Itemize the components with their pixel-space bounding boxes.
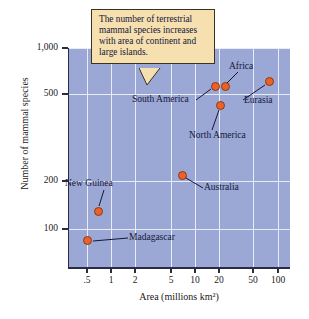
xtick-mark-50 [252,268,254,273]
xtick-mark-0.5 [86,268,88,273]
point-label-north-america: North America [189,131,246,141]
xtick-mark-1 [110,268,112,273]
plot-area [68,48,290,267]
point-label-new-guinea: New Guinea [65,179,113,189]
point-label-south-america: South America [132,95,189,105]
callout-annotation: The number of terrestrial mammal species… [91,9,215,64]
xtick-mark-5 [170,268,172,273]
gridline-vertical [219,48,220,267]
data-point-australia[interactable] [178,171,187,180]
point-label-madagascar: Madagascar [129,233,175,243]
xtick-mark-10 [194,268,196,273]
gridline-vertical [195,48,196,267]
ytick-label-1000: 1,000 [18,43,58,53]
point-label-australia: Australia [204,183,239,193]
data-point-africa[interactable] [221,82,230,91]
xtick-label-20: 20 [204,276,234,286]
ytick-mark-100 [62,228,68,230]
xtick-mark-2 [134,268,136,273]
y-axis-title: Number of mammal species [19,54,30,214]
x-axis-line [68,267,290,269]
scatter-chart-figure: Madagascar New Guinea Australia North Am… [0,0,309,319]
ytick-mark-500 [62,93,68,95]
xtick-mark-20 [218,268,220,273]
data-point-madagascar[interactable] [83,236,92,245]
point-label-eurasia: Eurasia [244,96,273,106]
data-point-north-america[interactable] [216,101,225,110]
xtick-mark-100 [277,268,279,273]
ytick-mark-200 [62,180,68,182]
gridline-vertical [111,48,112,267]
xtick-label-2: 2 [120,276,150,286]
gridline-horizontal [69,229,290,230]
gridline-vertical [87,48,88,267]
data-point-eurasia[interactable] [265,77,274,86]
gridline-vertical [253,48,254,267]
point-label-africa: Africa [229,62,253,72]
ytick-mark-1000 [62,47,68,49]
data-point-new-guinea[interactable] [94,207,103,216]
callout-tail-icon [139,68,161,86]
ytick-label-100: 100 [18,224,58,234]
xtick-label-100: 100 [263,276,293,286]
x-axis-title: Area (millions km²) [68,291,290,302]
data-point-south-america[interactable] [211,82,220,91]
gridline-vertical [278,48,279,267]
